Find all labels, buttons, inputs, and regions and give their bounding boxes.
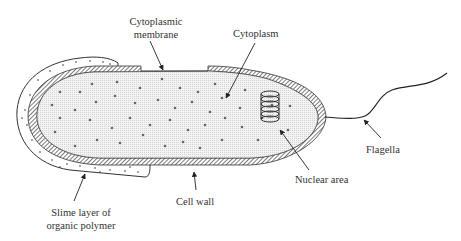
- arrow-cytoplasmic-membrane: [150, 41, 163, 70]
- label-cytoplasm: Cytoplasm: [233, 27, 279, 40]
- nuclear-area-coil: [261, 91, 279, 122]
- bacterial-cell-diagram: [0, 0, 461, 241]
- flagellum: [325, 73, 447, 118]
- cytoplasm-region: [37, 71, 318, 158]
- label-slime-layer: Slime layer of organic polymer: [36, 206, 126, 232]
- label-slime-layer-line1: Slime layer of: [36, 206, 126, 219]
- label-flagella: Flagella: [366, 143, 400, 156]
- label-nuclear-area: Nuclear area: [295, 173, 348, 186]
- label-slime-layer-line2: organic polymer: [36, 219, 126, 232]
- arrow-cell-wall: [194, 172, 196, 190]
- label-cytoplasmic-membrane-line2: membrane: [116, 28, 196, 41]
- label-cytoplasmic-membrane-line1: Cytoplasmic: [116, 15, 196, 28]
- arrow-slime-layer: [74, 174, 85, 201]
- label-cell-wall: Cell wall: [176, 195, 214, 208]
- label-cytoplasmic-membrane: Cytoplasmic membrane: [116, 15, 196, 41]
- arrow-flagella: [364, 120, 381, 138]
